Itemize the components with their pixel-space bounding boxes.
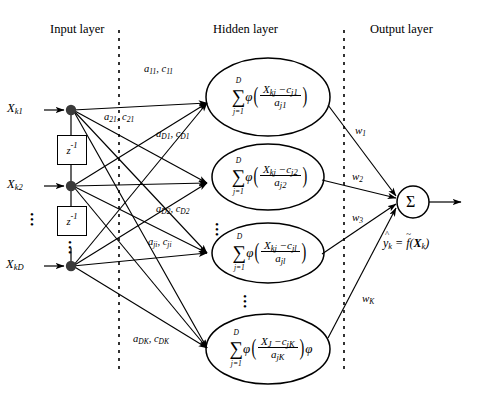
hidden-node-2-phi: φ xyxy=(245,169,252,185)
input-label-x-kD-base: X xyxy=(6,257,14,271)
input-ellipsis-delayline: • • • xyxy=(68,240,72,255)
hidden-node-2-sum: D ∑ j=1 xyxy=(232,169,246,185)
network-diagram: Input layer Hidden layer Output layer Xk… xyxy=(0,0,479,407)
hidden-node-l-formula: D ∑ j=1 φ( Xkj −cjl ajl ) xyxy=(218,240,322,265)
hidden-node-l-sum: D ∑ j=1 xyxy=(233,245,247,261)
hidden-node-2-paren-close: ) xyxy=(302,168,307,185)
layer-title-output: Output layer xyxy=(370,22,433,37)
hidden-node-2-paren-open: ( xyxy=(254,168,259,185)
edge-label-a11-c11: a11, c11 xyxy=(144,63,173,74)
layer-title-hidden: Hidden layer xyxy=(213,22,278,37)
input-label-x-kD: XkD xyxy=(6,257,24,272)
weight-label-w2: w2 xyxy=(352,170,363,182)
input-label-x-kD-sub: kD xyxy=(14,262,24,272)
hidden-node-K-paren-open: ( xyxy=(252,340,257,357)
edge-label-aD1-cD1: aD1, cD1 xyxy=(156,128,190,139)
edge-label-aDK-cDK: aDK, cDK xyxy=(133,333,169,344)
delay-box-1: z-1 xyxy=(57,135,87,165)
layer-title-input: Input layer xyxy=(50,22,105,37)
input-ellipsis-left: • • • xyxy=(30,212,34,227)
hidden-node-K-sum: D ∑ j=1 xyxy=(230,341,244,357)
hidden-node-K-phi: φ xyxy=(243,341,250,357)
hidden-node-K-paren-close: ) xyxy=(299,340,304,357)
hidden-node-l-fraction: Xkj −cjl ajl xyxy=(261,239,300,264)
hidden-node-1-sum: D ∑ j=1 xyxy=(232,89,246,105)
output-equation-ftilde: ~f xyxy=(406,236,409,250)
hidden-node-K-fraction: XJ −cjK ajK xyxy=(258,335,298,360)
input-label-x-k2-base: X xyxy=(7,177,15,191)
hidden-node-1-paren-open: ( xyxy=(254,88,259,105)
delay-box-1-exponent: -1 xyxy=(71,140,78,150)
weight-label-wK: wK xyxy=(362,292,374,304)
hidden-node-1-formula: D ∑ j=1 φ( Xkj −cj1 aj1 ) xyxy=(218,84,322,109)
hidden-node-2-fraction: Xkj −cj2 aj2 xyxy=(260,163,301,188)
output-equation: ^yk = ~f(Xk) xyxy=(383,236,429,251)
hidden-node-1-fraction: Xkj −cj1 aj1 xyxy=(260,83,301,108)
input-label-x-k2: Xk2 xyxy=(7,177,23,192)
edge-label-a21-c21: a21, c21 xyxy=(104,111,134,122)
input-label-x-k1-base: X xyxy=(7,101,15,115)
weight-label-w3: w3 xyxy=(352,211,363,223)
input-label-x-k2-sub: k2 xyxy=(15,182,23,192)
edge-label-aji-cji: aji, cji xyxy=(148,236,172,247)
hidden-node-1-phi: φ xyxy=(245,89,252,105)
output-sigma-symbol: Σ xyxy=(406,193,415,211)
input-label-x-k1: Xk1 xyxy=(7,101,23,116)
hidden-node-l-paren-open: ( xyxy=(255,244,260,261)
edge-label-aD2-cD2: aD2, cD2 xyxy=(156,203,190,214)
hidden-node-2-formula: D ∑ j=1 φ( Xkj −cj2 aj2 ) xyxy=(218,164,322,189)
hidden-node-K-trailing-phi: φ xyxy=(305,341,312,357)
hidden-ellipsis-lower: • • • xyxy=(243,294,247,309)
hidden-node-l-paren-close: ) xyxy=(301,244,306,261)
weight-label-w1: w1 xyxy=(355,124,366,136)
hidden-node-1-paren-close: ) xyxy=(302,88,307,105)
hidden-node-K-formula: D ∑ j=1 φ( XJ −cjK ajK )φ xyxy=(212,336,330,361)
delay-box-2-exponent: -1 xyxy=(71,211,78,221)
delay-box-2: z-1 xyxy=(57,206,87,236)
hidden-node-l-phi: φ xyxy=(246,245,253,261)
input-label-x-k1-sub: k1 xyxy=(15,106,23,116)
hidden-ellipsis-upper: • • • xyxy=(215,222,219,237)
